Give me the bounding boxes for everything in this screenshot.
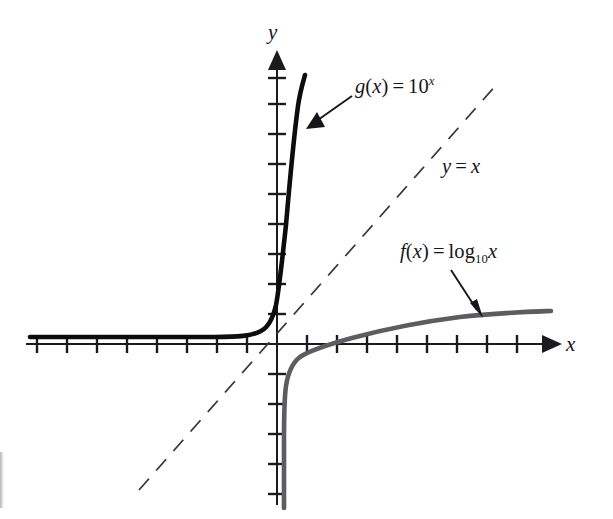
arrow-to-f-curve [451, 270, 483, 318]
identity-rhs: x [471, 155, 480, 177]
scan-edge-artifact [0, 452, 4, 508]
y-axis-arrowhead [268, 50, 286, 70]
logarithmic-curve-f [284, 311, 551, 508]
identity-line-y-equals-x [139, 84, 497, 490]
g-exponent: x [429, 74, 435, 88]
identity-lhs: y [442, 155, 451, 177]
x-axis-label: x [566, 334, 575, 355]
f-equals-sign: = [429, 240, 449, 262]
graph-canvas [0, 0, 613, 519]
identity-equals-sign: = [451, 155, 471, 177]
exponential-curve-g [30, 75, 305, 337]
g-function-name: g [355, 75, 365, 97]
log-base: 10 [475, 252, 488, 266]
x-axis-arrowhead [542, 335, 562, 353]
y-axis-label: y [268, 22, 277, 43]
g-equals-sign: = [388, 75, 408, 97]
f-function-label: f(x)=log10x [400, 241, 497, 262]
g-function-label: g(x)=10x [355, 76, 435, 97]
f-function-arg: x [413, 240, 422, 262]
g-function-arg: x [372, 75, 381, 97]
axes-group [26, 50, 562, 505]
identity-line-label: y=x [442, 156, 480, 177]
log-argument: x [488, 240, 497, 262]
arrow-to-g-curve [306, 96, 352, 129]
g-base: 10 [408, 75, 429, 97]
log-operator: log [449, 240, 476, 262]
math-figure: y x g(x)=10x y=x f(x)=log10x [0, 0, 613, 519]
